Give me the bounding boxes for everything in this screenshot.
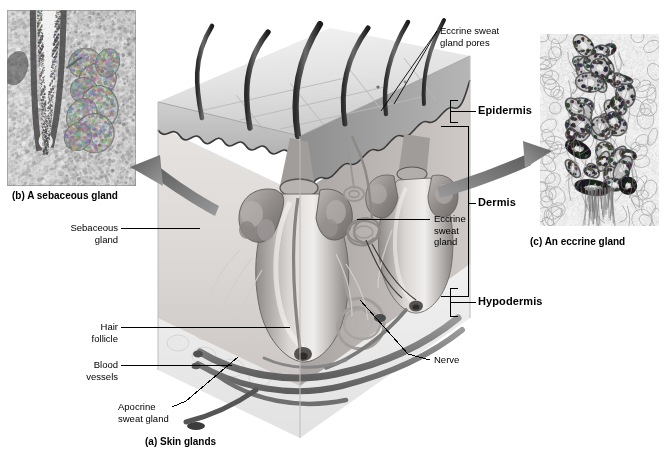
label-hypodermis: Hypodermis [478,295,543,308]
label-hair-follicle: Hair follicle [48,321,118,344]
caption-c: (c) An eccrine gland [530,236,625,248]
skin-glands-figure: Eccrine sweat gland pores Epidermis Derm… [0,0,667,459]
caption-a: (a) Skin glands [145,436,216,448]
label-blood-vessels: Blood vessels [40,359,118,382]
label-eccrine-sweat-gland-pores: Eccrine sweat gland pores [440,25,530,48]
caption-b: (b) A sebaceous gland [12,190,118,202]
label-sebaceous-gland: Sebaceous gland [38,222,118,245]
label-nerve: Nerve [434,354,459,366]
label-dermis: Dermis [478,196,516,209]
label-apocrine-sweat-gland: Apocrine sweat gland [118,401,218,424]
label-epidermis: Epidermis [478,104,532,117]
label-eccrine-sweat-gland: Eccrine sweat gland [434,213,494,248]
